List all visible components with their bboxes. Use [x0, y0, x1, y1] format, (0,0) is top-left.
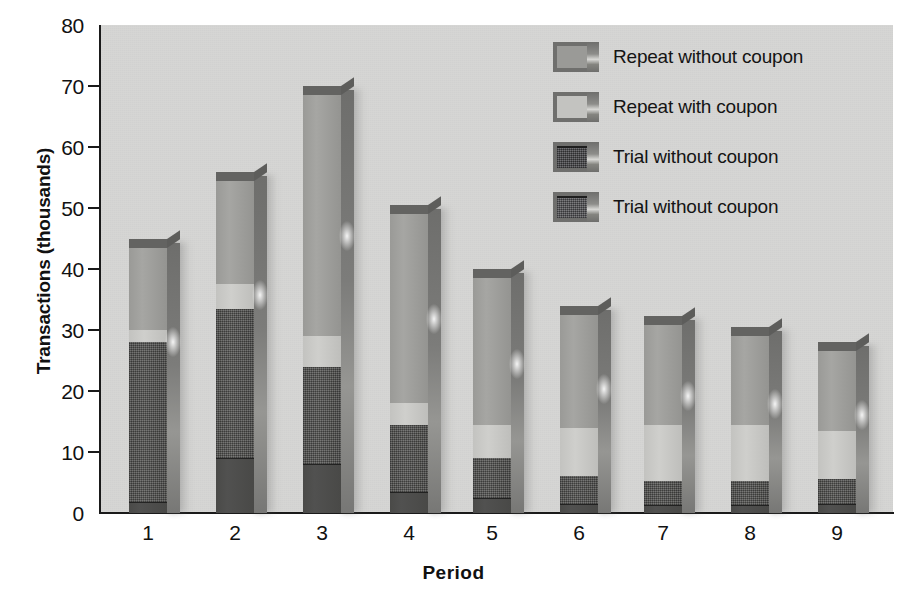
- bar-segment[interactable]: [731, 425, 769, 481]
- bar-stack[interactable]: [216, 181, 254, 513]
- bar-top-face: [731, 327, 769, 336]
- bar-segment[interactable]: [644, 505, 682, 513]
- bar-segment[interactable]: [644, 481, 682, 505]
- legend-item[interactable]: Repeat with coupon: [553, 82, 803, 132]
- legend-label: Trial without coupon: [613, 196, 778, 218]
- y-axis-tick-label-text: 80: [42, 14, 84, 38]
- bar-side-face: [769, 331, 782, 513]
- legend-swatch-face: [557, 96, 587, 118]
- legend-swatch-side: [587, 192, 599, 222]
- legend: Repeat without couponRepeat with couponT…: [553, 32, 803, 232]
- bar-side-face: [511, 273, 524, 513]
- bar-segment[interactable]: [560, 315, 598, 428]
- bar-segment[interactable]: [644, 325, 682, 424]
- bar-segment[interactable]: [303, 336, 341, 367]
- x-axis-tick-label: 9: [812, 521, 862, 545]
- bar-stack[interactable]: [303, 95, 341, 513]
- bar-top-face: [216, 172, 254, 181]
- y-axis-tick: [88, 146, 100, 148]
- bar-top-face: [303, 86, 341, 95]
- bar-segment[interactable]: [216, 284, 254, 308]
- y-axis-tick-label-text: 70: [42, 75, 84, 99]
- bar-side-face: [682, 320, 695, 513]
- bar-segment[interactable]: [473, 425, 511, 459]
- bar-segment[interactable]: [216, 309, 254, 458]
- bar-side-face: [167, 243, 180, 513]
- x-axis-tick-label: 3: [297, 521, 347, 545]
- bar-segment[interactable]: [473, 278, 511, 424]
- legend-item[interactable]: Trial without coupon: [553, 132, 803, 182]
- bar-stack[interactable]: [644, 325, 682, 513]
- bar-segment[interactable]: [560, 428, 598, 477]
- bar-segment[interactable]: [560, 504, 598, 513]
- legend-swatch: [553, 92, 599, 122]
- bar-segment[interactable]: [129, 330, 167, 342]
- bar-top-face: [473, 269, 511, 278]
- legend-swatch-face: [557, 146, 587, 168]
- bar-segment[interactable]: [129, 248, 167, 330]
- bar-segment[interactable]: [818, 479, 856, 504]
- y-axis-tick-label: 0: [42, 502, 84, 524]
- bar-segment[interactable]: [818, 431, 856, 480]
- bar-stack[interactable]: [731, 336, 769, 513]
- bar-top-face: [129, 239, 167, 248]
- chart-figure: 01020304050607080 Transactions (thousand…: [0, 0, 907, 606]
- y-axis-tick: [88, 329, 100, 331]
- bar-stack[interactable]: [818, 351, 856, 513]
- legend-label: Repeat without coupon: [613, 46, 803, 68]
- legend-item[interactable]: Repeat without coupon: [553, 32, 803, 82]
- bar-top-face: [818, 342, 856, 351]
- bar-segment[interactable]: [303, 95, 341, 336]
- legend-label: Repeat with coupon: [613, 96, 777, 118]
- bar-segment[interactable]: [216, 181, 254, 285]
- bar-stack[interactable]: [473, 278, 511, 513]
- y-axis-tick-label: 80: [42, 14, 84, 36]
- bar-stack[interactable]: [390, 214, 428, 513]
- bar-segment[interactable]: [390, 425, 428, 492]
- legend-label: Trial without coupon: [613, 146, 778, 168]
- x-axis-tick-label: 1: [123, 521, 173, 545]
- bar-segment[interactable]: [473, 458, 511, 498]
- y-axis-tick: [88, 390, 100, 392]
- bar-segment[interactable]: [303, 367, 341, 465]
- legend-swatch: [553, 192, 599, 222]
- bar-segment[interactable]: [644, 425, 682, 481]
- y-axis-tick-label-text: 10: [42, 441, 84, 465]
- bar-top-face: [560, 306, 598, 315]
- bar-segment[interactable]: [390, 403, 428, 424]
- bar-side-face: [341, 90, 354, 513]
- legend-swatch-face: [557, 46, 587, 68]
- x-axis-tick-label: 5: [467, 521, 517, 545]
- legend-swatch-face: [557, 196, 587, 218]
- bar-side-face: [598, 310, 611, 513]
- x-axis-tick-label: 4: [384, 521, 434, 545]
- y-axis-tick-label: 70: [42, 75, 84, 97]
- bar-segment[interactable]: [560, 476, 598, 503]
- bar-stack[interactable]: [129, 248, 167, 513]
- x-axis-tick-label: 7: [638, 521, 688, 545]
- bar-side-face: [254, 176, 267, 513]
- y-axis-tick: [88, 268, 100, 270]
- bar-segment[interactable]: [303, 464, 341, 513]
- bar-segment[interactable]: [731, 336, 769, 424]
- y-axis-tick: [88, 451, 100, 453]
- x-axis-title: Period: [0, 562, 907, 584]
- legend-item[interactable]: Trial without coupon: [553, 182, 803, 232]
- x-axis-tick-label: 8: [725, 521, 775, 545]
- bar-segment[interactable]: [731, 481, 769, 505]
- bar-side-face: [428, 209, 441, 513]
- bar-segment[interactable]: [129, 342, 167, 502]
- y-axis-title: Transactions (thousands): [33, 101, 55, 421]
- bar-side-face: [856, 346, 869, 513]
- bar-segment[interactable]: [129, 502, 167, 513]
- bar-segment[interactable]: [818, 504, 856, 513]
- x-axis-tick-label: 6: [554, 521, 604, 545]
- bar-segment[interactable]: [473, 498, 511, 513]
- bar-segment[interactable]: [390, 492, 428, 513]
- bar-stack[interactable]: [560, 315, 598, 513]
- bar-segment[interactable]: [216, 458, 254, 513]
- bar-segment[interactable]: [390, 214, 428, 403]
- bar-segment[interactable]: [731, 505, 769, 513]
- bar-top-face: [390, 205, 428, 214]
- bar-segment[interactable]: [818, 351, 856, 430]
